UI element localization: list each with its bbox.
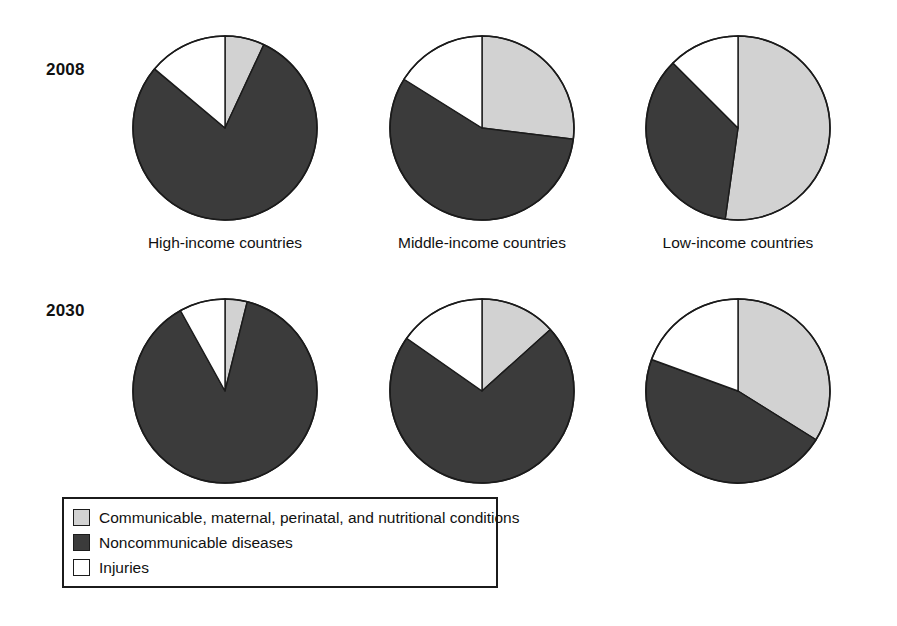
- pie-slice: [482, 36, 574, 139]
- column-label-middle-income: Middle-income countries: [386, 234, 578, 252]
- legend-item-injuries: Injuries: [73, 555, 496, 580]
- pie-2008-low-income: [642, 32, 834, 224]
- pie-2008-low-income-svg: [642, 32, 834, 224]
- row-label-2008: 2008: [46, 60, 85, 80]
- row-label-2030: 2030: [46, 301, 85, 321]
- pie-2008-middle-income-svg: [386, 32, 578, 224]
- pie-2030-low-income-svg: [642, 295, 834, 487]
- legend-label-injuries: Injuries: [99, 560, 149, 576]
- column-label-low-income: Low-income countries: [642, 234, 834, 252]
- legend-label-noncommunicable: Noncommunicable diseases: [99, 535, 293, 551]
- legend: Communicable, maternal, perinatal, and n…: [62, 497, 498, 588]
- pie-2030-high-income-svg: [129, 295, 321, 487]
- pie-2030-middle-income: [386, 295, 578, 487]
- column-label-high-income: High-income countries: [129, 234, 321, 252]
- pie-2008-high-income: [129, 32, 321, 224]
- legend-label-communicable: Communicable, maternal, perinatal, and n…: [99, 510, 519, 526]
- legend-swatch-noncommunicable: [73, 534, 90, 551]
- pie-2030-middle-income-svg: [386, 295, 578, 487]
- legend-swatch-communicable: [73, 509, 90, 526]
- pie-2008-high-income-svg: [129, 32, 321, 224]
- pie-2030-low-income: [642, 295, 834, 487]
- pie-2008-middle-income: [386, 32, 578, 224]
- pie-2030-high-income: [129, 295, 321, 487]
- pie-chart-figure: 2008 2030 High-income countries Middle-i…: [0, 0, 897, 626]
- pie-slice: [725, 36, 830, 220]
- legend-item-communicable: Communicable, maternal, perinatal, and n…: [73, 505, 496, 530]
- legend-item-noncommunicable: Noncommunicable diseases: [73, 530, 496, 555]
- legend-swatch-injuries: [73, 559, 90, 576]
